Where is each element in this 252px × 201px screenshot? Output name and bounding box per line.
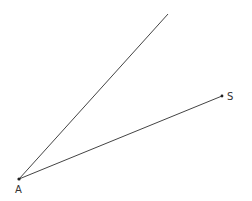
label-s: S [227,91,233,102]
point-a [17,177,20,180]
upper-ray [19,14,168,179]
angle-diagram: A S [0,0,252,201]
label-a: A [15,184,22,195]
ray-as [19,96,222,179]
point-s [221,95,224,98]
